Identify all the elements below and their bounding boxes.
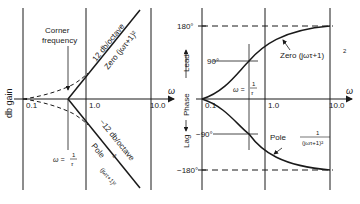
phase-zero-label: Zero (jωτ+1)	[280, 51, 325, 60]
corner-label-1: Corner	[45, 26, 70, 35]
phase-omega-den: τ	[251, 90, 254, 96]
y-minus-180: −180°	[177, 166, 198, 175]
phase-omega-num: 1	[252, 81, 256, 87]
phase-zero-curve	[202, 26, 330, 99]
pole-den: (jωτ+1)²	[99, 167, 117, 187]
phase-label: Phase	[182, 93, 191, 116]
tick-1.0: 1.0	[89, 101, 101, 110]
phase-tick-0.1: 0.1	[205, 101, 217, 110]
omega-label: ω	[168, 86, 175, 96]
y-180: 180°	[177, 22, 194, 31]
phase-tick-1.0: 1.0	[268, 101, 280, 110]
magnitude-plot	[14, 8, 174, 190]
tick-10.0: 10.0	[150, 101, 166, 110]
omega-den: τ	[71, 161, 74, 167]
phase-omega-label: ω	[346, 86, 353, 96]
phase-pole-den: (jωτ+1)²	[302, 140, 323, 146]
pole-pointer	[274, 148, 282, 154]
phase-pole-word: Pole	[270, 133, 287, 142]
db-gain-label: db gain	[4, 88, 14, 118]
phase-omega-eq: ω =	[233, 86, 244, 93]
lag-label: Lag	[182, 135, 191, 148]
zero-pointer	[283, 40, 290, 50]
phase-pole-curve	[202, 99, 330, 170]
omega-num: 1	[72, 152, 76, 158]
y-90: 90°	[207, 57, 219, 66]
corner-label-2: frequency	[42, 36, 77, 45]
tick-0.1: 0.1	[26, 101, 38, 110]
lead-label: Lead	[182, 54, 191, 72]
bode-figure: db gain 0.1 1.0 10.0 ω Corner frequency …	[0, 0, 360, 204]
omega-eq: ω =	[53, 156, 64, 163]
y-minus-90: −90°	[196, 130, 213, 139]
phase-plot	[196, 8, 352, 190]
phase-pole-num: 1	[316, 130, 320, 136]
phase-tick-10.0: 10.0	[329, 101, 345, 110]
phase-zero-exp: 2	[343, 48, 347, 54]
